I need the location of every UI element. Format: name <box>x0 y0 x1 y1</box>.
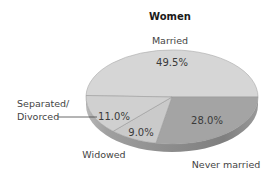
label-separated-line1: Separated/ <box>17 98 70 109</box>
chart-title: Women <box>149 11 191 22</box>
value-never-married: 28.0% <box>191 115 223 126</box>
pie-chart: Women Married 49.5% 28.0% Never married … <box>0 0 270 178</box>
value-separated-divorced: 11.0% <box>98 111 130 122</box>
label-never-married: Never married <box>192 159 261 170</box>
value-married: 49.5% <box>156 57 188 68</box>
label-widowed: Widowed <box>82 149 125 160</box>
label-married: Married <box>152 35 188 46</box>
label-separated-line2: Divorced <box>17 111 59 122</box>
value-widowed: 9.0% <box>128 127 153 138</box>
